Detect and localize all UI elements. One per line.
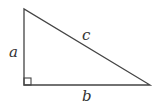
- label-b: b: [82, 87, 92, 104]
- label-c: c: [82, 26, 91, 44]
- right-angle-marker: [24, 78, 31, 85]
- label-a: a: [9, 43, 18, 61]
- triangle-outline: [24, 9, 150, 85]
- right-triangle-diagram: a c b: [0, 0, 156, 104]
